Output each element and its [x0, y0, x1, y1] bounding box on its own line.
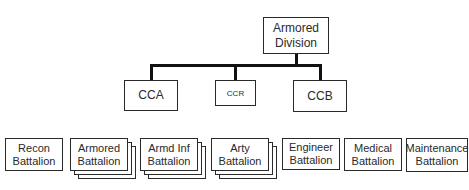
node-label-line2: Battalion: [406, 155, 469, 168]
node-label-line1: Medical: [352, 142, 395, 155]
node-label-line2: Battalion: [13, 155, 56, 168]
node-label-line2: Battalion: [352, 155, 395, 168]
node-label-line1: Armored: [78, 142, 121, 155]
node-armd-inf-battalion: Armd Inf Battalion: [140, 138, 198, 171]
node-label-line2: Battalion: [289, 154, 333, 167]
connector-ccb: [319, 64, 322, 80]
node-label-line1: Maintenance: [406, 142, 469, 155]
node-label-line2: Battalion: [148, 155, 191, 168]
node-arty-battalion: Arty Battalion: [211, 138, 269, 171]
node-cca: CCA: [124, 80, 178, 111]
node-label-line1: Arty: [219, 142, 262, 155]
node-label: CCR: [227, 87, 244, 100]
node-maintenance-battalion: Maintenance Battalion: [406, 138, 468, 172]
node-label: CCB: [307, 90, 332, 103]
node-ccb: CCB: [293, 80, 347, 112]
node-label-line2: Battalion: [219, 155, 262, 168]
node-label-line2: Division: [273, 36, 319, 51]
node-armored-battalion: Armored Battalion: [70, 138, 128, 171]
node-engineer-battalion: Engineer Battalion: [282, 138, 340, 170]
node-ccr: CCR: [215, 80, 256, 106]
node-medical-battalion: Medical Battalion: [344, 138, 402, 171]
node-label: CCA: [138, 89, 163, 102]
node-label-line1: Engineer: [289, 141, 333, 154]
node-recon-battalion: Recon Battalion: [5, 138, 63, 171]
node-label-line2: Battalion: [78, 155, 121, 168]
node-label-line1: Recon: [13, 142, 56, 155]
node-label-line1: Armored: [273, 21, 319, 36]
connector-cca: [150, 64, 153, 80]
node-label-line1: Armd Inf: [148, 142, 191, 155]
node-armored-division: Armored Division: [263, 17, 329, 54]
connector-ccr: [234, 64, 237, 80]
